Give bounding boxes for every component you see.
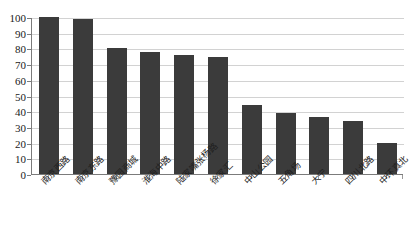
bar [39,17,59,174]
y-axis-tick-label: 20 [0,139,26,150]
y-axis-tick-label: 80 [0,44,26,55]
bar [140,52,160,174]
bar [309,117,329,174]
y-axis-tick-label: 70 [0,60,26,71]
bar [73,19,93,174]
bar [174,55,194,174]
y-axis-tick-label: 10 [0,154,26,165]
bar [107,48,127,174]
y-axis-tick-label: 90 [0,29,26,40]
y-axis-tick-label: 100 [0,13,26,24]
bar-chart: 0102030405060708090100 南京西路南京东路豫园商城淮海中路陆… [0,0,409,248]
y-axis-tick-label: 40 [0,107,26,118]
plot-area [31,18,403,175]
y-axis-tick-label: 60 [0,76,26,87]
x-axis-labels: 南京西路南京东路豫园商城淮海中路陆家嘴张杨路徐家汇中山公园五角场大宁四川北路中环… [0,178,409,248]
y-axis-tick-label: 50 [0,92,26,103]
y-axis-tick-label: 30 [0,123,26,134]
